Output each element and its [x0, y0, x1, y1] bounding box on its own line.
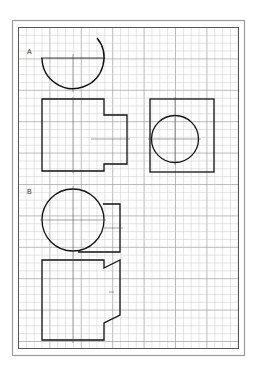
figure-a-label: A	[27, 48, 32, 55]
graph-paper-drawing: A B	[0, 0, 257, 369]
figure-b-label: B	[27, 188, 32, 195]
